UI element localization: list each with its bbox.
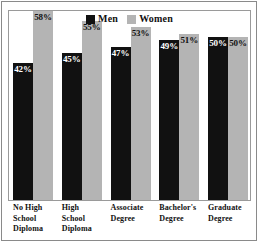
bar-value-label: 51% <box>179 35 199 45</box>
plot-area: 42%58%45%55%47%53%49%51%50%50% <box>9 11 250 200</box>
bar-value-label: 53% <box>131 28 151 38</box>
category-label: No High School Diploma <box>13 203 43 235</box>
category-label: Graduate Degree <box>208 203 242 224</box>
category-axis-labels: No High School DiplomaHigh School Diplom… <box>8 203 251 243</box>
bar-value-label: 47% <box>111 48 131 58</box>
bar-men: 50% <box>208 37 228 200</box>
chart-legend: Men Women <box>9 14 250 24</box>
bar-men: 47% <box>111 47 131 200</box>
bar-women: 50% <box>228 37 248 200</box>
bar-men: 42% <box>13 63 33 200</box>
bar-value-label: 50% <box>208 38 228 48</box>
legend-entry-men: Men <box>86 14 118 24</box>
bar-women: 51% <box>179 34 199 200</box>
bar-group: 45%55% <box>62 11 102 200</box>
category-label: High School Diploma <box>62 203 92 235</box>
bar-women: 55% <box>82 21 102 200</box>
category-label: Bachelor's Degree <box>159 203 196 224</box>
bar-group: 49%51% <box>159 11 199 200</box>
legend-label-men: Men <box>98 14 118 24</box>
bar-value-label: 42% <box>13 64 33 74</box>
bar-value-label: 50% <box>228 38 248 48</box>
bar-women: 53% <box>131 27 151 200</box>
grouped-bar-chart: Men Women 42%58%45%55%47%53%49%51%50%50%… <box>0 0 259 243</box>
legend-label-women: Women <box>139 14 173 24</box>
men-swatch-icon <box>86 15 95 24</box>
women-swatch-icon <box>127 15 136 24</box>
bar-value-label: 49% <box>159 41 179 51</box>
bar-women: 58% <box>33 11 53 200</box>
bar-group: 47%53% <box>111 11 151 200</box>
plot-frame: Men Women 42%58%45%55%47%53%49%51%50%50% <box>8 10 251 201</box>
bar-group: 50%50% <box>208 11 248 200</box>
bar-men: 45% <box>62 53 82 200</box>
category-label: Associate Degree <box>111 203 144 224</box>
bar-value-label: 45% <box>62 54 82 64</box>
legend-entry-women: Women <box>127 14 173 24</box>
bar-men: 49% <box>159 40 179 200</box>
bar-group: 42%58% <box>13 11 53 200</box>
